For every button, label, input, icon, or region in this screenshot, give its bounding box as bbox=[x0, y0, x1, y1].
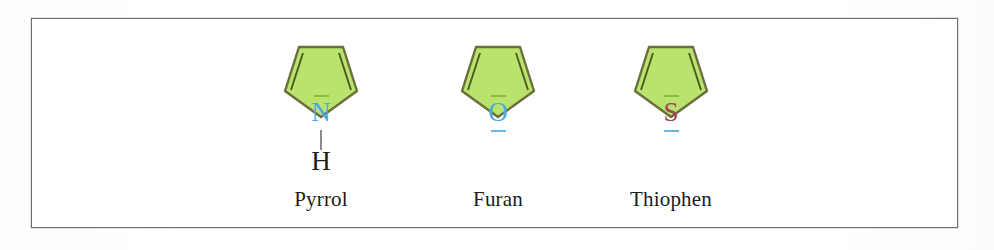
figure-frame: N H Pyrrol O Furan bbox=[31, 18, 958, 228]
furan-heteroatom-label: O bbox=[468, 99, 528, 126]
furan-caption: Furan bbox=[413, 187, 583, 211]
molecule-pyrrol: N H Pyrrol bbox=[236, 19, 406, 229]
thiophen-heteroatom-label: S bbox=[641, 99, 701, 126]
figure-page: N H Pyrrol O Furan bbox=[0, 0, 994, 250]
furan-lone-pair-bottom bbox=[491, 130, 506, 132]
pyrrol-caption: Pyrrol bbox=[236, 187, 406, 211]
molecule-thiophen: S Thiophen bbox=[586, 19, 756, 229]
thiophen-lone-pair-bottom bbox=[664, 130, 679, 132]
molecule-furan: O Furan bbox=[413, 19, 583, 229]
pyrrol-heteroatom-label: N bbox=[291, 99, 351, 126]
pyrrol-hydrogen-label: H bbox=[291, 148, 351, 175]
thiophen-caption: Thiophen bbox=[586, 187, 756, 211]
